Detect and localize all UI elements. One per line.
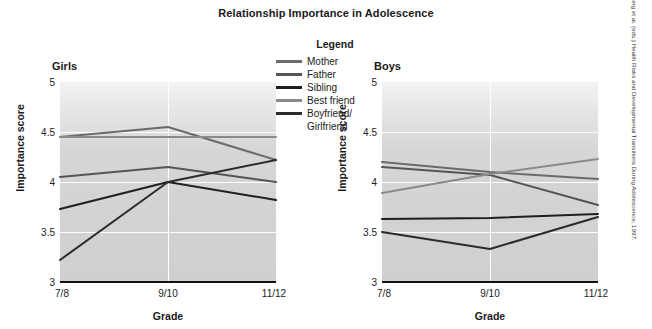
y-axis-tick-label: 3.5 bbox=[363, 227, 377, 238]
y-axis-tick-label: 5 bbox=[371, 77, 377, 88]
y-axis-tick-label: 5 bbox=[49, 77, 55, 88]
page-title: Relationship Importance in Adolescence bbox=[0, 7, 652, 19]
x-axis-tick-label: 9/10 bbox=[158, 288, 177, 299]
legend-heading: Legend bbox=[276, 38, 394, 50]
series-lines bbox=[60, 82, 276, 282]
panel-boys-title: Boys bbox=[374, 60, 401, 72]
y-axis-tick-label: 3 bbox=[371, 277, 377, 288]
series-line-mother bbox=[382, 162, 598, 179]
series-line-sibling bbox=[382, 214, 598, 219]
series-lines bbox=[382, 82, 598, 282]
y-axis-tick-label: 4.5 bbox=[363, 127, 377, 138]
panel-girls-title: Girls bbox=[52, 60, 77, 72]
y-axis-tick-label: 3.5 bbox=[41, 227, 55, 238]
x-axis-tick-label: 7/8 bbox=[377, 288, 391, 299]
series-line-boyfriend-girlfriend bbox=[382, 217, 598, 249]
panel-boys-plot: 33.544.557/89/1011/12 bbox=[382, 82, 598, 282]
panel-boys-x-axis-label: Grade bbox=[382, 310, 598, 322]
y-axis-tick-label: 4 bbox=[49, 177, 55, 188]
y-axis-tick-label: 4 bbox=[371, 177, 377, 188]
panel-girls-x-axis-label: Grade bbox=[60, 310, 276, 322]
x-axis-tick-label: 7/8 bbox=[55, 288, 69, 299]
panel-girls-plot: 33.544.557/89/1011/12 bbox=[60, 82, 276, 282]
chart-page: Relationship Importance in Adolescence L… bbox=[0, 0, 652, 329]
y-axis-tick-label: 4.5 bbox=[41, 127, 55, 138]
x-axis-tick-label: 11/12 bbox=[262, 288, 286, 299]
panel-girls-plot-area: 33.544.557/89/1011/12 bbox=[60, 82, 276, 282]
x-axis-tick-label: 11/12 bbox=[584, 288, 608, 299]
y-axis-tick-label: 3 bbox=[49, 277, 55, 288]
series-line-sibling bbox=[60, 182, 276, 209]
panel-girls-y-axis-label: Importance score bbox=[14, 78, 26, 218]
x-axis-tick-label: 9/10 bbox=[480, 288, 499, 299]
panel-boys: Boys Importance score 33.544.557/89/1011… bbox=[330, 60, 630, 325]
series-line-father bbox=[60, 167, 276, 182]
panel-boys-plot-area: 33.544.557/89/1011/12 bbox=[382, 82, 598, 282]
series-line-mother bbox=[60, 127, 276, 160]
panel-boys-y-axis-label: Importance score bbox=[336, 78, 348, 218]
panel-girls: Girls Importance score 33.544.557/89/101… bbox=[8, 60, 308, 325]
